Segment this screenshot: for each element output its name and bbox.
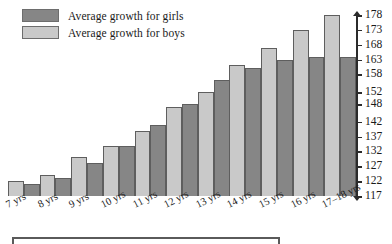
y-tick-mark: [356, 137, 362, 139]
bar-group: [40, 15, 72, 196]
y-tick-mark: [356, 60, 362, 62]
bottom-divider-left-cap: [12, 237, 14, 244]
y-tick-mark: [356, 92, 362, 94]
bar-group: [293, 15, 325, 196]
y-tick-label: 158: [365, 69, 382, 81]
growth-bar-chart: Average growth for girls Average growth …: [0, 0, 392, 244]
y-tick-mark: [356, 122, 362, 124]
bottom-divider-right-cap: [278, 237, 280, 244]
bar-group: [261, 15, 293, 196]
y-tick-label: 127: [365, 161, 382, 173]
bar-group: [8, 15, 40, 196]
bar-groups: [8, 15, 356, 196]
y-tick-label: 132: [365, 146, 382, 158]
bar-girls: [214, 80, 230, 196]
y-tick-label: 142: [365, 116, 382, 128]
plot-area: [8, 15, 356, 196]
bar-group: [166, 15, 198, 196]
y-tick-label: 148: [365, 98, 382, 110]
bar-group: [324, 15, 356, 196]
y-tick-mark: [356, 196, 362, 198]
bar-boys: [166, 107, 182, 196]
bar-boys: [261, 48, 277, 196]
bar-group: [198, 15, 230, 196]
y-tick-mark: [356, 30, 362, 32]
y-axis-line: [356, 15, 358, 197]
bar-girls: [55, 178, 71, 196]
bar-girls: [87, 163, 103, 196]
y-tick-label: 178: [365, 9, 382, 21]
y-tick-mark: [356, 45, 362, 47]
y-tick-mark: [356, 104, 362, 106]
bar-boys: [103, 146, 119, 196]
bar-group: [71, 15, 103, 196]
bar-girls: [245, 68, 261, 196]
y-tick-mark: [356, 151, 362, 153]
y-tick-label: 168: [365, 39, 382, 51]
bar-group: [229, 15, 261, 196]
y-tick-mark: [356, 166, 362, 168]
y-tick-label: 122: [365, 175, 382, 187]
y-tick-mark: [356, 74, 362, 76]
bar-girls: [309, 57, 325, 196]
y-tick-label: 163: [365, 54, 382, 66]
bar-boys: [229, 65, 245, 196]
bar-girls: [182, 104, 198, 196]
bar-boys: [135, 131, 151, 196]
bar-girls: [340, 57, 356, 196]
bar-group: [135, 15, 167, 196]
bar-boys: [324, 15, 340, 196]
y-tick-label: 137: [365, 131, 382, 143]
bar-boys: [293, 30, 309, 196]
y-tick-mark: [356, 15, 362, 17]
bottom-divider: [12, 237, 280, 239]
bar-boys: [198, 92, 214, 196]
bar-girls: [24, 184, 40, 196]
y-tick-label: 173: [365, 24, 382, 36]
y-tick-label: 152: [365, 86, 382, 98]
bar-girls: [150, 125, 166, 196]
bar-girls: [277, 60, 293, 196]
bar-group: [103, 15, 135, 196]
y-tick-label: 117: [365, 190, 382, 202]
